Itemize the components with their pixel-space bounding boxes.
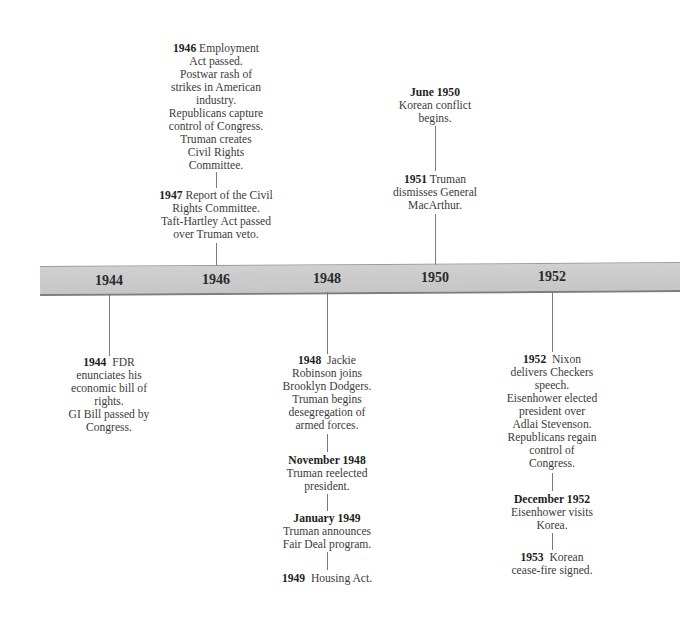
event-1944-line-2: economic bill of bbox=[69, 382, 150, 395]
event-december-1952-date: December 1952 bbox=[511, 493, 593, 506]
event-1952-line-5: Adlai Stevenson. bbox=[507, 418, 597, 431]
event-december-1952-line-1: Korea. bbox=[511, 519, 593, 532]
connector-1946-1947 bbox=[216, 172, 217, 188]
event-1952-text: Nixon bbox=[552, 353, 581, 366]
event-1949-year: 1949 bbox=[282, 572, 305, 585]
connector-1950-1951 bbox=[435, 126, 436, 171]
event-1948-line-1: Robinson joins bbox=[283, 367, 372, 380]
event-1946-line-6: control of Congress. bbox=[169, 120, 263, 133]
connector-1948-nov1948 bbox=[327, 434, 328, 452]
event-january-1949: January 1949 Truman announces Fair Deal … bbox=[283, 512, 372, 551]
event-1949-text: Housing Act. bbox=[311, 572, 372, 585]
axis-year-1944: 1944 bbox=[95, 273, 123, 289]
event-1949: 1949 Housing Act. bbox=[282, 572, 372, 585]
connector-dec1952-1953 bbox=[552, 533, 553, 550]
event-1944-line-4: GI Bill passed by bbox=[69, 408, 150, 421]
event-1952-line-7: control of bbox=[507, 444, 597, 457]
axis-year-1948: 1948 bbox=[313, 271, 341, 287]
event-1947-text: Report of the Civil bbox=[185, 189, 272, 202]
event-1944: 1944 FDR enunciates his economic bill of… bbox=[69, 356, 150, 434]
event-1947-line-3: over Truman veto. bbox=[159, 228, 272, 241]
event-1948-year: 1948 bbox=[298, 354, 321, 367]
event-1946-line-9: Committee. bbox=[169, 159, 263, 172]
event-1952-line-4: president over bbox=[507, 405, 597, 418]
event-1944-year: 1944 bbox=[83, 356, 106, 369]
event-1951-line-1: dismisses General bbox=[393, 186, 477, 199]
event-1953-year: 1953 bbox=[520, 551, 543, 564]
event-1947-line-1: Rights Committee. bbox=[159, 202, 272, 215]
event-january-1949-date: January 1949 bbox=[283, 512, 372, 525]
event-june-1950-line-0: Korean conflict bbox=[399, 99, 471, 112]
event-1946-line-5: Republicans capture bbox=[169, 107, 263, 120]
event-1952-line-0: 1952 Nixon bbox=[507, 353, 597, 366]
event-1952: 1952 Nixon delivers Checkers speech. Eis… bbox=[507, 353, 597, 470]
event-1951-line-0: 1951 Truman bbox=[393, 173, 477, 186]
event-1946-line-4: industry. bbox=[169, 94, 263, 107]
event-1948-line-5: armed forces. bbox=[283, 419, 372, 432]
event-june-1950: June 1950 Korean conflict begins. bbox=[399, 86, 471, 125]
event-1952-year: 1952 bbox=[523, 353, 546, 366]
axis-year-1952: 1952 bbox=[538, 269, 566, 285]
event-1947: 1947 Report of the Civil Rights Committe… bbox=[159, 189, 272, 241]
event-january-1949-line-0: Truman announces bbox=[283, 525, 372, 538]
event-1953: 1953 Korean cease-fire signed. bbox=[511, 551, 592, 577]
event-1948-line-4: desegregation of bbox=[283, 406, 372, 419]
event-1946-line-8: Civil Rights bbox=[169, 146, 263, 159]
event-december-1952: December 1952 Eisenhower visits Korea. bbox=[511, 493, 593, 532]
event-1944-line-0: 1944 FDR bbox=[69, 356, 150, 369]
event-june-1950-line-1: begins. bbox=[399, 112, 471, 125]
event-1946-line-7: Truman creates bbox=[169, 133, 263, 146]
event-1946: 1946 Employment Act passed. Postwar rash… bbox=[169, 42, 263, 172]
event-1953-line-1: cease-fire signed. bbox=[511, 564, 592, 577]
event-1953-text: Korean bbox=[549, 551, 583, 564]
connector-bar-1952 bbox=[552, 291, 553, 352]
event-1952-line-8: Congress. bbox=[507, 457, 597, 470]
event-1946-line-1: Act passed. bbox=[169, 55, 263, 68]
event-november-1948-date: November 1948 bbox=[286, 454, 367, 467]
event-june-1950-date: June 1950 bbox=[399, 86, 471, 99]
connector-nov1948-jan1949 bbox=[327, 494, 328, 511]
event-1952-line-6: Republicans regain bbox=[507, 431, 597, 444]
event-november-1948-line-0: Truman reelected bbox=[286, 467, 367, 480]
connector-1951-bar bbox=[435, 214, 436, 265]
event-1948-line-2: Brooklyn Dodgers. bbox=[283, 380, 372, 393]
event-1944-line-1: enunciates his bbox=[69, 369, 150, 382]
event-1952-line-3: Eisenhower elected bbox=[507, 392, 597, 405]
event-1944-text: FDR bbox=[112, 356, 135, 369]
event-1948-text: Jackie bbox=[327, 354, 356, 367]
event-1946-line-3: strikes in American bbox=[169, 81, 263, 94]
event-1947-line-2: Taft-Hartley Act passed bbox=[159, 215, 272, 228]
event-1944-line-3: rights. bbox=[69, 395, 150, 408]
event-1947-line-0: 1947 Report of the Civil bbox=[159, 189, 272, 202]
event-1948: 1948 Jackie Robinson joins Brooklyn Dodg… bbox=[283, 354, 372, 432]
axis-year-1946: 1946 bbox=[202, 272, 230, 288]
event-december-1952-line-0: Eisenhower visits bbox=[511, 506, 593, 519]
event-1944-line-5: Congress. bbox=[69, 421, 150, 434]
event-1946-year: 1946 bbox=[173, 42, 196, 55]
event-november-1948-line-1: president. bbox=[286, 480, 367, 493]
event-1951-line-2: MacArthur. bbox=[393, 199, 477, 212]
event-1946-text: Employment bbox=[199, 42, 259, 55]
event-1953-line-0: 1953 Korean bbox=[511, 551, 592, 564]
connector-jan1949-1949 bbox=[327, 552, 328, 570]
event-1951: 1951 Truman dismisses General MacArthur. bbox=[393, 173, 477, 212]
axis-year-1950: 1950 bbox=[421, 270, 449, 286]
event-1952-line-1: delivers Checkers bbox=[507, 366, 597, 379]
event-1946-line-2: Postwar rash of bbox=[169, 68, 263, 81]
event-1948-line-3: Truman begins bbox=[283, 393, 372, 406]
event-1949-line-0: 1949 Housing Act. bbox=[282, 572, 372, 585]
event-1952-line-2: speech. bbox=[507, 379, 597, 392]
timeline-bar bbox=[40, 262, 680, 296]
event-1951-year: 1951 bbox=[404, 173, 427, 186]
connector-bar-1944 bbox=[109, 294, 110, 356]
event-1948-line-0: 1948 Jackie bbox=[283, 354, 372, 367]
event-1951-text: Truman bbox=[430, 173, 466, 186]
event-1947-year: 1947 bbox=[159, 189, 182, 202]
event-1946-line-0: 1946 Employment bbox=[169, 42, 263, 55]
connector-1952-dec1952 bbox=[552, 473, 553, 491]
connector-bar-1948 bbox=[327, 292, 328, 354]
event-january-1949-line-1: Fair Deal program. bbox=[283, 538, 372, 551]
event-november-1948: November 1948 Truman reelected president… bbox=[286, 454, 367, 493]
connector-1947-bar bbox=[216, 243, 217, 267]
